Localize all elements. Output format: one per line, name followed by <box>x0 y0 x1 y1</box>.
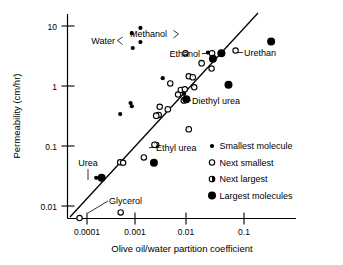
legend-label-largest: Largest molecules <box>220 191 294 201</box>
data-point-s3-p4-dot <box>217 49 225 57</box>
data-point-s3-p0-dot <box>98 174 106 182</box>
data-point-s1-p4 <box>141 155 146 160</box>
label-water: Water <box>91 36 115 46</box>
data-point-s0-p3 <box>138 40 142 44</box>
y-axis-title: Permeability (cm/hr) <box>11 74 22 159</box>
data-point-s3-p5-dot <box>224 81 232 89</box>
y-tick-label-10: 10 <box>48 22 58 32</box>
data-point-s0-p7-dot <box>161 76 165 80</box>
data-point-s1-p0-ring <box>77 215 82 220</box>
data-point-s0-p4-dot <box>118 112 122 116</box>
data-point-s2-p5 <box>190 74 196 80</box>
annotation-leaders <box>88 31 243 214</box>
data-point-s3-p1-dot <box>150 159 158 167</box>
legend-label-smallest: Smallest molecule <box>220 141 293 151</box>
legend-item-next_smallest: Next smallest <box>209 158 274 168</box>
water-bracket-icon <box>118 37 123 45</box>
legend-marker-next_smallest <box>209 160 214 165</box>
y-axis-tick-labels: 10 1 0.1 0.01 <box>40 22 57 212</box>
x-axis-title: Olive oil/water partition coefficient <box>111 243 253 254</box>
label-diethyl-urea: Diethyl urea <box>192 96 240 106</box>
label-glycerol: Glycerol <box>109 196 142 206</box>
data-point-s1-p14 <box>192 85 197 90</box>
x-tick-label-0.01: 0.01 <box>178 227 195 237</box>
data-point-s2-p6 <box>199 60 205 66</box>
data-point-s3-p0 <box>98 174 106 182</box>
data-point-s3-p3-dot <box>209 55 217 63</box>
x-axis-tick-labels: 0.0001 0.001 0.01 0.1 <box>74 227 250 237</box>
data-point-s0-p7 <box>161 76 165 80</box>
data-point-s3-p6 <box>267 38 275 46</box>
permeability-partition-coefficient-chart: 10 1 0.1 0.01 0.0001 0.001 0.01 0.1 Oliv… <box>0 0 343 265</box>
data-point-s3-p3 <box>209 55 217 63</box>
legend-label-next_smallest: Next smallest <box>220 158 275 168</box>
x-tick-label-0.1: 0.1 <box>238 227 250 237</box>
data-point-s1-p4-ring <box>141 155 146 160</box>
data-point-s0-p1 <box>131 46 135 50</box>
data-point-s3-p2-dot <box>182 95 190 103</box>
chart-canvas: 10 1 0.1 0.01 0.0001 0.001 0.01 0.1 Oliv… <box>0 0 343 265</box>
data-point-s2-p4 <box>186 126 192 132</box>
data-point-s3-p4 <box>217 49 225 57</box>
legend-marker-smallest-dot <box>210 144 214 148</box>
data-point-s1-p3 <box>118 210 123 215</box>
legend-marker-largest <box>208 192 216 200</box>
data-point-s1-p3-ring <box>118 210 123 215</box>
data-point-s1-p15-ring <box>209 66 214 71</box>
label-ethyl-urea: Ethyl urea <box>156 143 197 153</box>
data-point-s2-p2 <box>165 106 171 112</box>
data-point-s0-p6-dot <box>130 104 134 108</box>
data-point-s1-p0 <box>77 215 82 220</box>
data-point-s0-p4 <box>118 112 122 116</box>
legend-marker-smallest <box>210 144 214 148</box>
legend-marker-next_largest <box>209 176 215 182</box>
y-tick-label-1: 1 <box>52 82 57 92</box>
label-urethan: Urethan <box>244 48 276 58</box>
data-point-s3-p2 <box>182 95 190 103</box>
data-point-s1-p15 <box>209 66 214 71</box>
legend-marker-largest-dot <box>208 192 216 200</box>
x-tick-label-0.0001: 0.0001 <box>74 227 100 237</box>
legend-marker-next_smallest-ring <box>209 160 214 165</box>
data-point-s1-p2-ring <box>120 160 125 165</box>
data-point-s1-p7 <box>157 104 162 109</box>
y-tick-label-0.01: 0.01 <box>40 202 57 212</box>
data-point-s2-p1 <box>153 113 159 119</box>
legend-item-smallest: Smallest molecule <box>210 141 293 151</box>
data-point-s0-p3-dot <box>138 40 142 44</box>
data-point-s3-p1 <box>150 159 158 167</box>
label-ethanol: Ethanol <box>169 49 200 59</box>
data-point-s1-p11-ring <box>182 87 187 92</box>
legend-item-largest: Largest molecules <box>208 191 293 201</box>
legend-label-next_largest: Next largest <box>220 174 269 184</box>
data-point-s3-p6-dot <box>267 38 275 46</box>
methanol-bracket-icon <box>174 31 179 39</box>
data-point-s1-p8 <box>168 81 173 86</box>
legend: Smallest moleculeNext smallestNext large… <box>208 141 293 201</box>
data-point-s0-p1-dot <box>131 46 135 50</box>
label-methanol: Methanol <box>130 29 167 39</box>
data-point-s3-p5 <box>224 81 232 89</box>
data-point-s1-p2 <box>120 160 125 165</box>
data-point-s1-p14-ring <box>192 85 197 90</box>
x-tick-label-0.001: 0.001 <box>124 227 146 237</box>
glycerol-leader-icon <box>88 201 108 213</box>
data-point-s1-p11 <box>182 87 187 92</box>
data-point-s1-p8-ring <box>168 81 173 86</box>
legend-item-next_largest: Next largest <box>209 174 268 184</box>
data-point-s0-p6 <box>130 104 134 108</box>
data-point-s1-p7-ring <box>157 104 162 109</box>
y-tick-label-0.1: 0.1 <box>45 142 57 152</box>
label-urea: Urea <box>78 158 98 168</box>
